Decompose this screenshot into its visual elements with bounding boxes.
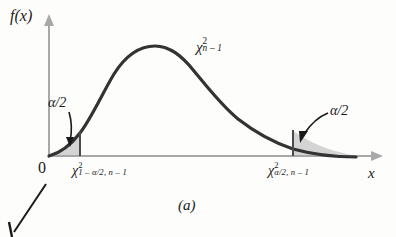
lower-tail-leader-arrow (69, 112, 71, 141)
lower-critical-value-label: χ 2 1 – α/2, n – 1 (72, 164, 78, 178)
distribution-label: χ 2 n – 1 (196, 40, 203, 55)
chi-square-density-curve (49, 46, 356, 157)
chi-square-figure: f(x) x 0 α/2 α/2 χ 2 n – 1 χ 2 1 – α/2, … (0, 0, 396, 237)
x-axis-arrowhead (371, 151, 383, 161)
lower-tail-area-label: α/2 (48, 96, 66, 110)
upper-tail-area-label: α/2 (330, 104, 348, 118)
upper-critical-value-label: χ 2 α/2, n – 1 (268, 164, 274, 178)
chi-subscript: n – 1 (203, 44, 223, 53)
figure-caption: (a) (178, 198, 196, 213)
x-axis-label: x (368, 166, 375, 181)
origin-leader-line (14, 184, 46, 232)
chi-subscript: 1 – α/2, n – 1 (78, 168, 127, 177)
upper-critical-chi-symbol: χ 2 α/2, n – 1 (268, 164, 274, 178)
y-axis-label: f(x) (10, 8, 32, 24)
chi-subscript: α/2, n – 1 (274, 168, 309, 177)
origin-label: 0 (38, 160, 46, 176)
distribution-chi-symbol: χ 2 n – 1 (196, 40, 203, 55)
lower-critical-chi-symbol: χ 2 1 – α/2, n – 1 (72, 164, 78, 178)
upper-tail-leader-arrow (304, 113, 328, 134)
y-axis-arrowhead (44, 14, 54, 26)
next-figure-tick (9, 222, 12, 237)
chi-square-plot (0, 0, 396, 237)
chi-glyph: χ (196, 39, 203, 55)
